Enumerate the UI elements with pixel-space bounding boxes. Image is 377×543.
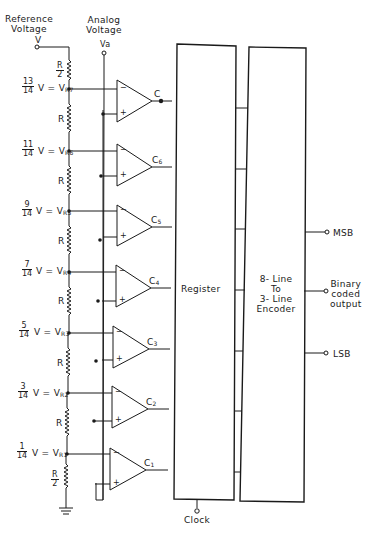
comparator-label-c4: C4 (149, 276, 160, 288)
comparator-label-c7: C (154, 89, 161, 101)
clock-terminal (195, 509, 199, 513)
comparator-label-c5: C5 (151, 215, 162, 227)
comparator-minus-label: − (120, 83, 127, 93)
register-label: Register (181, 284, 220, 294)
comparator-plus-label: + (120, 170, 127, 180)
comparator-label-c3: C3 (147, 337, 158, 349)
comparator-plus-label: + (120, 231, 127, 241)
resistor-label: R (58, 114, 65, 124)
analog-terminal (102, 51, 106, 55)
msb-label: MSB (333, 228, 354, 238)
reference-wire (39, 47, 69, 58)
clock-label: Clock (184, 515, 210, 525)
register-box (174, 44, 236, 500)
comparator-minus-label: − (120, 145, 127, 155)
comparator-minus-label: − (120, 205, 127, 215)
binary-coded-output-label: Binary coded output (330, 279, 362, 309)
comparator-label-c2: C2 (146, 397, 157, 409)
reference-terminal (35, 45, 39, 49)
comparator-plus-label: + (120, 108, 127, 118)
resistor-label-bottom: R2 (51, 471, 59, 488)
resistor-label: R (58, 176, 65, 186)
resistor-label: R (58, 296, 65, 306)
comparator-minus-label: − (113, 448, 120, 458)
lsb-label: LSB (333, 349, 351, 359)
resistor-label: R (57, 358, 64, 368)
reference-terminal-label: V (35, 35, 41, 45)
comparator-plus-label: + (113, 478, 120, 488)
comparator-label-c1: C1 (144, 458, 155, 470)
comparator-plus-label: + (116, 354, 123, 364)
resistor-label-top: R2 (56, 62, 64, 79)
comparator-minus-label: − (119, 266, 126, 276)
resistor-label: R (56, 418, 63, 428)
comparator-minus-label: − (116, 327, 123, 337)
comparator-plus-label: + (119, 295, 126, 305)
reference-voltage-label: Reference Voltage (5, 14, 53, 34)
analog-terminal-label: Va (100, 40, 110, 50)
comparator-label-c6: C6 (152, 155, 163, 167)
lsb-terminal (324, 351, 328, 355)
ground-symbol (59, 508, 73, 514)
binary-output-terminal (324, 289, 328, 293)
encoder-label: 8- Line To 3- Line Encoder (248, 274, 304, 314)
comparator-minus-label: − (115, 387, 122, 397)
msb-terminal (325, 230, 329, 234)
resistor-label: R (58, 236, 65, 246)
comparator-plus-label: + (115, 415, 122, 425)
resistor-ladder (64, 58, 71, 508)
analog-voltage-label: Analog Voltage (86, 15, 122, 35)
